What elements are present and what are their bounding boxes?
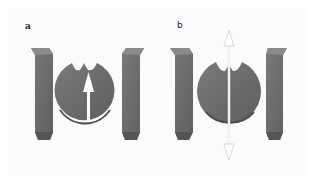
panel-a-diagram — [0, 0, 160, 193]
panel-b-diagram — [160, 0, 320, 193]
notched-disc-icon — [55, 63, 115, 123]
right-pillar-icon — [266, 48, 287, 140]
panel-a: a — [0, 0, 160, 193]
right-pillar-icon — [122, 48, 144, 140]
panel-b: b — [160, 0, 320, 193]
left-pillar-icon — [170, 48, 193, 140]
left-pillar-icon — [31, 48, 53, 140]
